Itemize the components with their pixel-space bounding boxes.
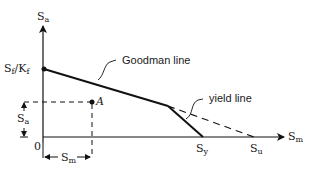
goodman-diagram: Sa Sm 0 Sf/Kf Sy Su Goodman line yield l… (0, 0, 314, 174)
goodman-line-dashed (168, 106, 254, 137)
point-a (90, 100, 95, 105)
yield-line-label: yield line (209, 93, 252, 104)
sm-dimension-label: Sm (61, 152, 76, 165)
sy-label: Sy (196, 143, 208, 156)
origin-label: 0 (34, 141, 41, 152)
x-axis-label: Sm (288, 131, 303, 144)
y-intercept-dot (42, 67, 47, 72)
su-label: Su (250, 143, 263, 156)
goodman-leader (98, 60, 116, 80)
sa-dimension-label: Sa (17, 113, 29, 126)
point-a-label: A (96, 96, 104, 107)
y-axis-label: Sa (37, 11, 49, 24)
y-intercept-label: Sf/Kf (4, 63, 29, 76)
diagram-graphics (0, 0, 314, 174)
goodman-line-label: Goodman line (122, 55, 191, 66)
goodman-line (44, 69, 168, 106)
yield-line (168, 106, 203, 137)
